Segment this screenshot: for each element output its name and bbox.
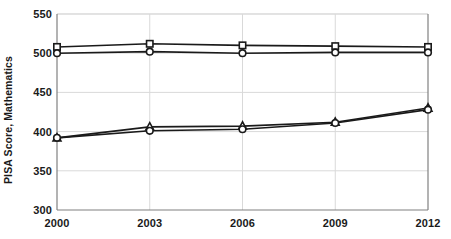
marker-circle (54, 135, 61, 142)
pisa-math-line-chart: PISA Score, Mathematics 3003504004505005… (0, 0, 451, 239)
marker-circle (239, 126, 246, 133)
marker-circle (54, 50, 61, 57)
marker-square (147, 41, 153, 47)
marker-square (239, 42, 245, 48)
marker-circle (425, 106, 432, 113)
plot-area (0, 0, 451, 239)
marker-circle (239, 50, 246, 57)
marker-circle (332, 120, 339, 127)
marker-circle (332, 49, 339, 56)
marker-circle (146, 48, 153, 55)
marker-circle (425, 49, 432, 56)
series-circle (54, 48, 432, 56)
marker-circle (146, 128, 153, 135)
series-square (54, 41, 431, 51)
